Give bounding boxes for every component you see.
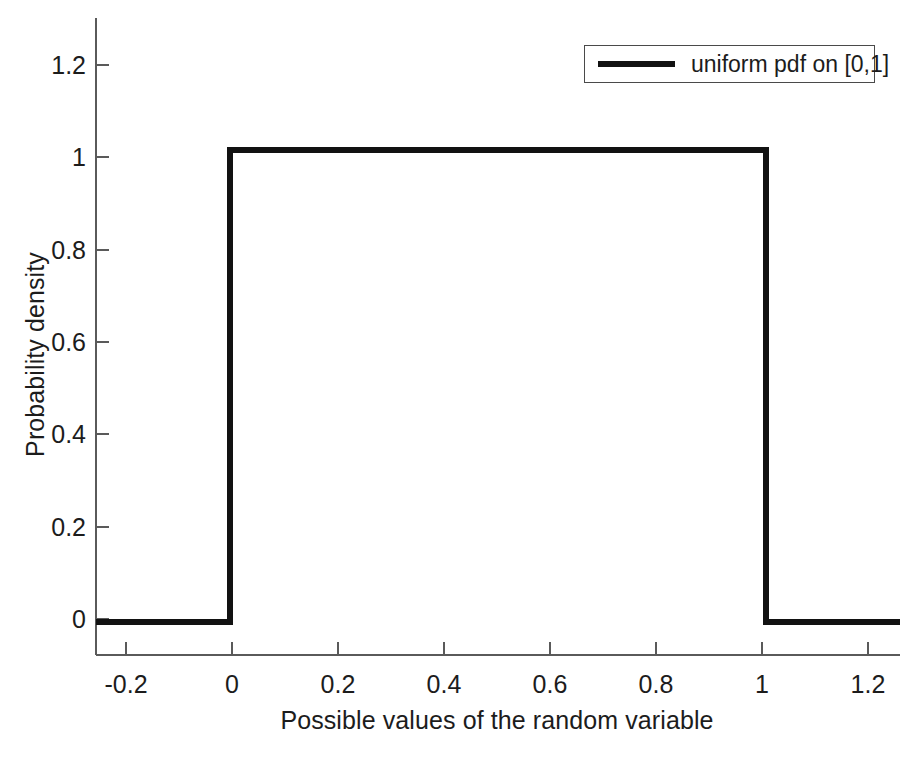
x-tick-label: -0.2 — [81, 672, 171, 697]
y-tick-label: 0.2 — [16, 515, 86, 540]
x-tick-label: 1.2 — [823, 672, 913, 697]
x-tick-label: 0 — [187, 672, 277, 697]
x-axis-title: Possible values of the random variable — [96, 706, 898, 735]
x-tick-label: 0.4 — [399, 672, 489, 697]
x-tick-label: 0.8 — [611, 672, 701, 697]
x-tick-label: 0.2 — [293, 672, 383, 697]
plot-svg — [0, 0, 914, 759]
y-tick-label: 1 — [16, 145, 86, 170]
legend-line-swatch — [598, 61, 675, 67]
figure-canvas: 1.2 1 0.8 0.6 0.4 0.2 0 -0.2 0 0.2 0.4 0… — [0, 0, 914, 759]
legend-label: uniform pdf on [0,1] — [691, 53, 889, 76]
y-tick-label: 1.2 — [16, 53, 86, 78]
x-tick-marks — [126, 642, 868, 655]
y-tick-marks — [96, 65, 109, 619]
x-tick-label: 0.6 — [505, 672, 595, 697]
x-tick-label: 1 — [717, 672, 807, 697]
series-uniform-pdf — [96, 150, 900, 622]
y-axis-title: Probability density — [21, 195, 50, 515]
y-tick-label: 0 — [16, 607, 86, 632]
legend[interactable]: uniform pdf on [0,1] — [584, 45, 875, 83]
